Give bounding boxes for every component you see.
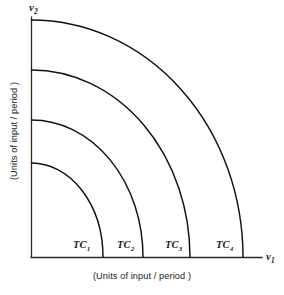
curve-label-tc3: TC3 [165,239,183,253]
x-axis-caption: (Units of input / period ) [0,271,284,281]
x-axis-variable-label: v1 [266,250,275,265]
curve-label-tc1: TC1 [73,239,91,253]
curve-label-tc4: TC4 [216,239,234,253]
plot-curves [0,0,284,295]
y-axis-caption: (Units of input / period ) [9,61,19,201]
curve-label-tc2: TC2 [117,239,135,253]
y-axis-variable-label: v2 [29,1,38,16]
isocost-curve-figure: v2 v1 TC1 TC2 TC3 TC4 (Units of input / … [0,0,284,295]
